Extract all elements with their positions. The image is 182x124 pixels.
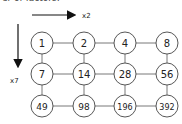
node: 49 [36,102,48,112]
vertical-arrow-label: x7 [10,77,19,85]
node: 4 [122,38,128,49]
node: 8 [164,38,170,49]
node: 392 [159,103,174,112]
horizontal-arrow-label: x2 [82,12,91,20]
node: 14 [78,69,91,80]
node: 98 [78,102,90,112]
grid-nodes [31,32,178,117]
node: 56 [161,69,174,80]
node: 196 [117,103,132,112]
node: 7 [39,69,45,80]
node: 28 [119,69,132,80]
factor-grid-diagram: x2 x7 1 2 4 8 7 14 28 56 49 98 196 392 [0,0,182,124]
node: 1 [39,38,45,49]
node: 2 [81,38,87,49]
grid-edges [42,43,167,106]
